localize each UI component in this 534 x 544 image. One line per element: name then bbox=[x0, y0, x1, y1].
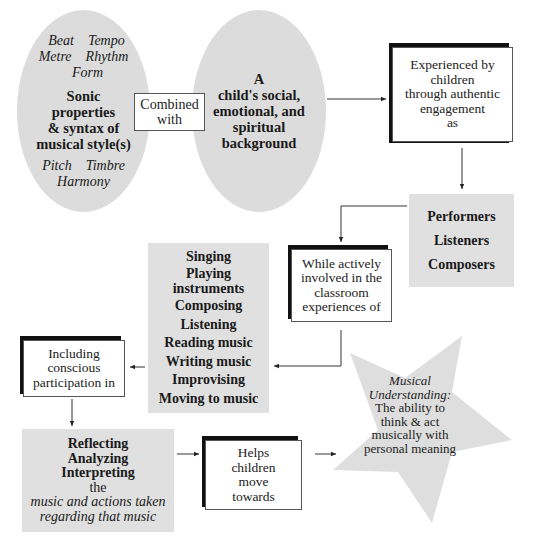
background-line: emotional, and bbox=[213, 103, 305, 119]
sonic-title: Sonic properties & syntax of musical sty… bbox=[36, 88, 131, 152]
activity-item: Singing bbox=[186, 248, 231, 267]
goal-line: The ability to bbox=[375, 401, 445, 415]
experienced-box: Experienced by children through authenti… bbox=[392, 47, 513, 142]
activity-item: Composing bbox=[175, 297, 243, 316]
arrow-while-to-activities bbox=[274, 330, 341, 366]
goal-line: musically with bbox=[372, 428, 449, 442]
experienced-line: as bbox=[447, 116, 458, 131]
element-form: Form bbox=[72, 65, 103, 81]
activity-item: Writing music bbox=[166, 353, 252, 372]
goal-line: personal meaning bbox=[364, 442, 456, 456]
role-performers: Performers bbox=[427, 205, 495, 229]
experienced-line: children bbox=[430, 73, 474, 88]
music-actions-line: music and actions taken bbox=[31, 495, 166, 510]
role-listeners: Listeners bbox=[434, 229, 489, 253]
goal-star-text: Musical Understanding: The ability to th… bbox=[350, 374, 470, 455]
element-timbre: Timbre bbox=[86, 158, 125, 173]
including-box: Including conscious participation in bbox=[23, 340, 125, 397]
role-composers: Composers bbox=[428, 253, 495, 277]
element-pitch: Pitch bbox=[42, 158, 72, 173]
interpreting-line: Interpreting bbox=[61, 466, 135, 481]
sonic-title-line: musical style(s) bbox=[36, 136, 131, 152]
child-background-ellipse: A child's social, emotional, and spiritu… bbox=[192, 10, 326, 212]
element-rhythm: Rhythm bbox=[86, 49, 129, 64]
sonic-properties-ellipse: Beat Tempo Metre Rhythm Form Sonic prope… bbox=[17, 10, 150, 212]
element-harmony: Harmony bbox=[57, 174, 110, 190]
background-line: A bbox=[254, 71, 264, 87]
background-line: background bbox=[222, 135, 297, 151]
activity-item: Improvising bbox=[172, 371, 245, 390]
reflecting-line: Reflecting bbox=[68, 437, 129, 452]
while-line: While actively bbox=[302, 257, 381, 272]
helps-line: Helps bbox=[238, 446, 270, 461]
including-line: participation in bbox=[33, 376, 115, 391]
while-line: classroom bbox=[314, 286, 369, 301]
goal-title-line: Musical bbox=[389, 374, 431, 388]
activity-item: Playing bbox=[186, 266, 231, 281]
regarding-line: regarding that music bbox=[40, 510, 156, 525]
the-line: the bbox=[89, 481, 106, 496]
roles-box: Performers Listeners Composers bbox=[409, 194, 514, 287]
background-line: spiritual bbox=[233, 119, 285, 135]
sonic-title-line: & syntax of bbox=[36, 120, 131, 136]
activities-box: Singing Playing instruments Composing Li… bbox=[148, 243, 269, 413]
analyzing-line: Analyzing bbox=[68, 452, 129, 467]
including-line: Including bbox=[48, 347, 100, 362]
elements-row-1: Beat Tempo bbox=[48, 33, 124, 49]
sonic-title-line: properties bbox=[36, 104, 131, 120]
activity-item: Reading music bbox=[164, 334, 252, 353]
experienced-line: engagement bbox=[420, 102, 485, 117]
while-line: involved in the bbox=[301, 271, 382, 286]
background-line: child's social, bbox=[218, 87, 300, 103]
activity-item: Moving to music bbox=[159, 390, 259, 409]
while-box: While actively involved in the classroom… bbox=[291, 249, 392, 322]
activity-item: instruments bbox=[173, 281, 245, 297]
helps-box: Helps children move towards bbox=[205, 440, 302, 510]
activity-item: Listening bbox=[180, 316, 236, 335]
reflecting-box: Reflecting Analyzing Interpreting the mu… bbox=[22, 429, 174, 532]
element-beat: Beat bbox=[48, 33, 74, 48]
while-line: experiences of bbox=[302, 300, 380, 315]
helps-line: children bbox=[231, 461, 275, 476]
element-tempo: Tempo bbox=[88, 33, 125, 48]
sonic-title-line: Sonic bbox=[36, 88, 131, 104]
experienced-line: Experienced by bbox=[410, 58, 494, 73]
element-metre: Metre bbox=[39, 49, 72, 64]
arrow-roles-to-while bbox=[341, 206, 407, 242]
combined-with-box: Combined with bbox=[134, 93, 205, 131]
combined-line: with bbox=[157, 112, 182, 127]
including-line: conscious bbox=[47, 361, 100, 376]
goal-title-line: Understanding: bbox=[369, 388, 451, 402]
helps-line: move bbox=[239, 475, 269, 490]
elements-row-4: Pitch Timbre bbox=[42, 158, 125, 174]
elements-row-2: Metre Rhythm bbox=[39, 49, 129, 65]
combined-line: Combined bbox=[140, 97, 198, 112]
goal-line: think & act bbox=[381, 415, 440, 429]
helps-line: towards bbox=[232, 490, 275, 505]
experienced-line: through authentic bbox=[405, 87, 500, 102]
